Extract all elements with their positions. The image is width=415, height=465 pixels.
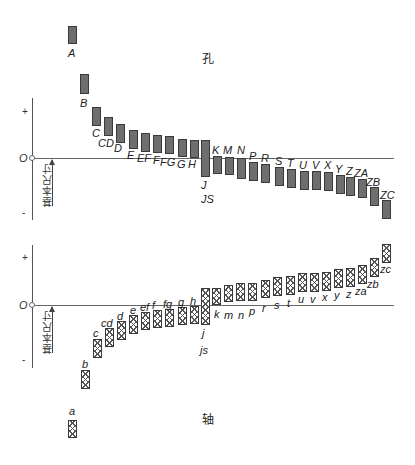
shaft-bar-k xyxy=(212,288,221,305)
hole-bar-N xyxy=(237,158,246,179)
shaft-label-r: r xyxy=(262,303,266,314)
shaft-bar-z xyxy=(346,268,355,287)
shaft-label-k: k xyxy=(214,309,220,320)
hole-bar-C xyxy=(92,107,101,126)
shaft-label-p: p xyxy=(249,306,255,317)
hole-arrow-head-icon xyxy=(49,159,55,165)
shaft-bar-g xyxy=(178,307,187,325)
shaft-label-z: z xyxy=(346,289,352,300)
hole-zero-label: O xyxy=(19,153,28,164)
shaft-arrow-head-icon xyxy=(49,306,55,312)
hole-bar-A xyxy=(68,26,77,44)
hole-bar-R xyxy=(261,164,270,183)
hole-origin-dot xyxy=(29,155,35,161)
hole-bar-V xyxy=(312,171,321,190)
shaft-label-a: a xyxy=(69,406,75,417)
shaft-bar-h xyxy=(190,306,199,324)
hole-bar-U xyxy=(300,171,309,190)
shaft-label-y: y xyxy=(334,290,340,301)
shaft-label-j: j xyxy=(202,328,204,339)
shaft-label-s: s xyxy=(274,300,280,311)
shaft-basic-size-arrow xyxy=(52,307,53,353)
shaft-label-zb: zb xyxy=(367,279,379,290)
shaft-bar-a xyxy=(68,420,77,438)
shaft-bar-j xyxy=(201,288,210,325)
hole-bar-K xyxy=(213,156,222,174)
shaft-bar-fg xyxy=(165,309,174,327)
shaft-label-n: n xyxy=(238,310,244,321)
hole-bar-E xyxy=(129,130,138,149)
shaft-label-b: b xyxy=(82,359,88,370)
hole-label-G: G xyxy=(177,159,186,170)
hole-basic-size-arrow xyxy=(52,160,53,206)
hole-bar-EF xyxy=(141,133,150,152)
hole-bar-D xyxy=(116,124,125,143)
shaft-bar-u xyxy=(298,273,307,292)
hole-label-Z: Z xyxy=(346,166,353,177)
hole-bar-S xyxy=(275,167,284,186)
shaft-label-v: v xyxy=(310,294,316,305)
shaft-bar-t xyxy=(286,276,295,295)
shaft-bar-zb xyxy=(370,258,379,277)
hole-label-ZC: ZC xyxy=(380,190,395,201)
hole-label-Y: Y xyxy=(335,164,342,175)
shaft-label-u: u xyxy=(298,294,304,305)
hole-label-V: V xyxy=(312,160,319,171)
shaft-origin-dot xyxy=(29,302,35,308)
hole-label-B: B xyxy=(80,98,87,109)
hole-bar-ZC xyxy=(382,200,391,219)
shaft-bar-x xyxy=(322,272,331,291)
hole-label-A: A xyxy=(68,48,75,59)
shaft-title: 轴 xyxy=(202,410,214,427)
hole-bar-H xyxy=(190,140,199,158)
shaft-label-js: js xyxy=(200,345,208,356)
shaft-label-t: t xyxy=(287,298,290,309)
hole-bar-B xyxy=(80,74,89,94)
hole-label-D: D xyxy=(114,143,122,154)
hole-bar-M xyxy=(225,157,234,175)
shaft-label-cd: cd xyxy=(101,318,113,329)
shaft-label-x: x xyxy=(322,292,328,303)
hole-bar-J xyxy=(201,140,210,177)
shaft-bar-s xyxy=(273,277,282,296)
shaft-bar-n xyxy=(236,283,245,301)
shaft-label-h: h xyxy=(190,296,196,307)
hole-bar-G xyxy=(178,139,187,157)
hole-label-U: U xyxy=(299,160,307,171)
hole-label-H: H xyxy=(188,159,196,170)
hole-label-R: R xyxy=(261,153,269,164)
hole-bar-T xyxy=(287,169,296,188)
shaft-bar-m xyxy=(224,285,233,302)
shaft-label-m: m xyxy=(224,310,233,321)
hole-label-CD: CD xyxy=(98,138,114,149)
shaft-bar-p xyxy=(248,283,257,301)
shaft-bar-v xyxy=(310,273,319,292)
hole-label-EF: EF xyxy=(137,153,151,164)
hole-label-M: M xyxy=(223,145,232,156)
shaft-label-d: d xyxy=(117,311,123,322)
hole-label-E: E xyxy=(127,150,134,161)
hole-label-K: K xyxy=(212,145,219,156)
shaft-bar-b xyxy=(81,370,90,389)
shaft-minus-tick: - xyxy=(22,355,25,365)
shaft-zero-line xyxy=(34,305,394,306)
hole-label-S: S xyxy=(275,156,282,167)
hole-label-P: P xyxy=(249,151,256,162)
shaft-bar-d xyxy=(117,321,126,340)
shaft-bar-r xyxy=(261,280,270,298)
hole-label-J: J xyxy=(201,180,207,191)
hole-label-F: F xyxy=(153,155,160,166)
hole-minus-tick: - xyxy=(22,208,25,218)
hole-bar-Y xyxy=(336,175,345,194)
shaft-label-zc: zc xyxy=(380,264,391,275)
shaft-bar-cd xyxy=(105,328,114,347)
shaft-label-c: c xyxy=(93,328,99,339)
hole-plus-tick: + xyxy=(22,107,28,117)
shaft-zero-label: O xyxy=(19,300,28,311)
shaft-label-fg: fg xyxy=(163,299,172,310)
shaft-bar-f xyxy=(153,310,162,328)
shaft-label-e: e xyxy=(130,305,136,316)
shaft-plus-tick: + xyxy=(22,253,28,263)
shaft-bar-zc xyxy=(382,244,391,263)
shaft-label-ef: ef xyxy=(140,302,149,313)
